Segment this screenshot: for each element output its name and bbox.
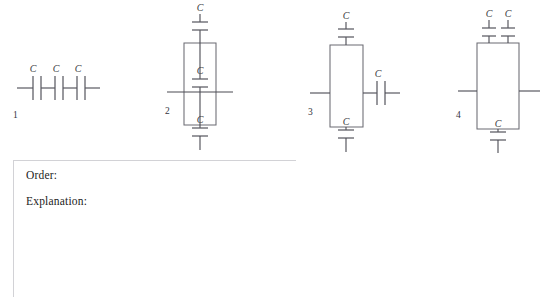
circuit-2-capacitor-bottom <box>192 128 208 136</box>
explanation-label: Explanation: <box>26 195 87 207</box>
circuit-3: C C C 3 <box>308 10 400 152</box>
circuit-3-capacitor-bottom <box>338 130 354 138</box>
circuit-4-capacitor-bottom <box>490 132 506 140</box>
circuit-4-capacitor-top-a-label: C <box>486 8 493 19</box>
circuit-1-capacitor-c-label: C <box>75 63 82 74</box>
circuit-3-capacitor-top <box>338 29 354 37</box>
circuit-4: C C C 4 <box>456 8 540 153</box>
circuit-2-capacitor-top-label: C <box>197 2 204 13</box>
circuit-1-capacitor-b-label: C <box>53 63 60 74</box>
circuit-1-capacitor-b <box>55 76 63 100</box>
circuit-3-capacitor-bottom-label: C <box>343 116 350 127</box>
circuit-4-capacitor-top-a <box>482 28 496 36</box>
circuit-4-capacitor-top-b <box>501 28 515 36</box>
order-label: Order: <box>26 169 57 181</box>
circuit-diagrams: C C C 1 C C <box>0 0 560 160</box>
circuit-4-number: 4 <box>456 110 461 120</box>
answer-area-left-rule <box>13 160 14 297</box>
circuit-3-loop <box>330 45 363 127</box>
circuit-2-capacitor-top <box>192 22 208 30</box>
circuit-2-capacitor-middle <box>192 79 208 87</box>
circuit-2: C C C 2 <box>165 2 233 150</box>
circuit-3-capacitor-series <box>377 81 385 105</box>
circuit-1-capacitor-a-label: C <box>30 63 37 74</box>
circuit-1-capacitor-c <box>77 76 85 100</box>
circuit-4-capacitor-top-b-label: C <box>505 8 512 19</box>
circuit-2-capacitor-middle-label: C <box>197 65 204 76</box>
answer-area: Order: Explanation: <box>0 155 560 297</box>
circuit-1-number: 1 <box>13 110 18 120</box>
circuit-3-capacitor-top-label: C <box>343 10 350 21</box>
worksheet-page: C C C 1 C C <box>0 0 560 297</box>
circuit-4-loop <box>477 43 519 129</box>
circuit-4-capacitor-bottom-label: C <box>495 118 502 129</box>
circuit-2-capacitor-bottom-label: C <box>197 114 204 125</box>
circuit-2-number: 2 <box>165 106 170 116</box>
circuit-1: C C C 1 <box>13 63 100 120</box>
answer-area-top-rule <box>13 160 296 161</box>
circuit-1-capacitor-a <box>33 76 41 100</box>
circuit-3-capacitor-series-label: C <box>375 68 382 79</box>
circuit-3-number: 3 <box>308 107 313 117</box>
